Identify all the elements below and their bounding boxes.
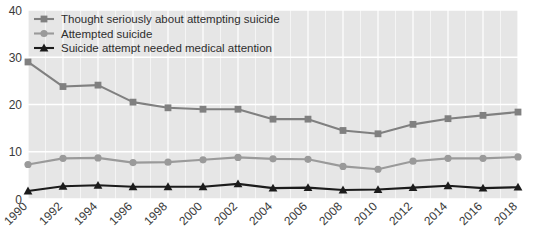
data-point-marker — [409, 158, 416, 165]
data-point-marker — [94, 154, 101, 161]
legend-label: Suicide attempt needed medical attention — [61, 42, 272, 54]
y-tick-label: 20 — [9, 98, 23, 112]
data-point-marker — [340, 127, 347, 134]
data-point-marker — [95, 82, 102, 89]
data-point-marker — [339, 163, 346, 170]
data-point-marker — [200, 106, 207, 113]
legend-label: Attempted suicide — [61, 28, 152, 40]
data-point-marker — [59, 155, 66, 162]
y-tick-label: 40 — [9, 4, 23, 18]
data-point-marker — [480, 112, 487, 119]
data-point-marker — [235, 106, 242, 113]
data-point-marker — [375, 130, 382, 137]
data-point-marker — [60, 83, 67, 90]
legend-label: Thought seriously about attempting suici… — [61, 13, 280, 25]
data-point-marker — [199, 156, 206, 163]
data-point-marker — [515, 109, 522, 116]
data-point-marker — [444, 155, 451, 162]
legend-item-3[interactable]: Suicide attempt needed medical attention — [34, 42, 272, 54]
data-point-marker — [305, 116, 312, 123]
data-point-marker — [129, 159, 136, 166]
data-point-marker — [165, 104, 172, 111]
data-point-marker — [304, 156, 311, 163]
data-point-marker — [41, 16, 48, 23]
data-point-marker — [25, 59, 32, 66]
data-point-marker — [40, 30, 47, 37]
data-point-marker — [164, 159, 171, 166]
legend-item-1[interactable]: Thought seriously about attempting suici… — [34, 13, 280, 25]
line-chart: 010203040 199019921994199619982000200220… — [0, 0, 534, 241]
data-point-marker — [479, 155, 486, 162]
chart-canvas: 010203040 199019921994199619982000200220… — [0, 0, 534, 241]
y-tick-label: 10 — [9, 145, 23, 159]
data-point-marker — [24, 161, 31, 168]
data-point-marker — [445, 115, 452, 122]
data-point-marker — [269, 155, 276, 162]
y-tick-label: 30 — [9, 51, 23, 65]
data-point-marker — [130, 99, 137, 106]
data-point-marker — [270, 116, 277, 123]
data-point-marker — [410, 121, 417, 128]
data-point-marker — [234, 154, 241, 161]
data-point-marker — [374, 166, 381, 173]
data-point-marker — [514, 153, 521, 160]
